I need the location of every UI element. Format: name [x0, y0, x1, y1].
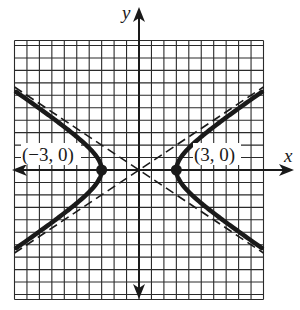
hyperbola-graph: (−3, 0) (3, 0) x y [0, 0, 300, 310]
y-axis-label: y [120, 2, 131, 23]
vertex-point [171, 165, 182, 176]
labels: (−3, 0) (3, 0) x y [21, 2, 293, 166]
vertex-label-left: (−3, 0) [22, 144, 74, 166]
vertex-point [96, 165, 107, 176]
x-axis-label: x [283, 145, 293, 166]
vertex-label-right: (3, 0) [194, 144, 235, 166]
